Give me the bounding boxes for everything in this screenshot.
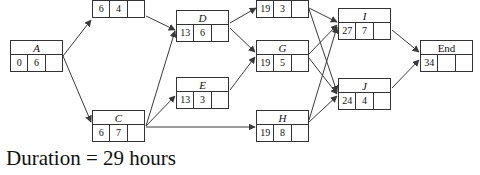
node-label: I	[339, 9, 390, 23]
edge-d-to-f	[230, 8, 256, 23]
edge-a-to-c	[63, 56, 91, 122]
node-cell-2	[128, 125, 144, 141]
edge-h-to-j	[309, 96, 337, 122]
node-cell-0: 0	[11, 55, 28, 71]
node-label: A	[11, 41, 62, 55]
edge-e-to-g	[230, 57, 255, 90]
node-cell-0: 19	[257, 125, 274, 141]
node-f: 193	[256, 0, 309, 18]
node-cell-2	[212, 92, 228, 108]
node-cell-1: 4	[356, 93, 373, 109]
node-cell-1: 7	[356, 23, 373, 39]
node-cell-1: 6	[194, 25, 211, 41]
node-j: J244	[338, 78, 391, 110]
node-cell-0: 19	[257, 1, 274, 17]
node-cell-2	[374, 93, 390, 109]
node-label: G	[257, 41, 308, 55]
edge-g-to-j	[309, 58, 337, 94]
node-cell-0: 6	[93, 125, 110, 141]
node-cell-1: 8	[274, 125, 291, 141]
node-e: E133	[176, 77, 229, 109]
duration-caption: Duration = 29 hours	[6, 145, 176, 171]
node-cells: 277	[339, 23, 390, 39]
node-cells: 193	[257, 1, 308, 17]
node-cell-2	[212, 25, 228, 41]
node-b: 64	[92, 0, 145, 18]
node-label: End	[421, 41, 472, 55]
node-cell-1: 3	[274, 1, 291, 17]
node-label: C	[93, 111, 144, 125]
node-cell-0: 24	[339, 93, 356, 109]
node-cell-2	[374, 23, 390, 39]
node-label: J	[339, 79, 390, 93]
edge-h-to-i	[309, 27, 337, 120]
node-label: D	[177, 11, 228, 25]
node-cell-1: 4	[110, 1, 127, 17]
node-cell-1	[438, 55, 455, 71]
node-cell-0: 27	[339, 23, 356, 39]
node-g: G195	[256, 40, 309, 72]
node-cells: 34	[421, 55, 472, 71]
node-cells: 133	[177, 92, 228, 108]
node-cell-0: 6	[93, 1, 110, 17]
node-cell-1: 3	[194, 92, 211, 108]
edge-i-to-end	[392, 30, 419, 52]
edge-j-to-end	[392, 60, 419, 88]
node-cell-2	[292, 125, 308, 141]
node-cell-0: 13	[177, 25, 194, 41]
edge-c-to-d	[146, 31, 175, 126]
node-cell-0: 19	[257, 55, 274, 71]
node-cell-1: 5	[274, 55, 291, 71]
edge-b-to-d	[146, 16, 175, 30]
node-cell-0: 34	[421, 55, 438, 71]
node-i: I277	[338, 8, 391, 40]
node-cells: 198	[257, 125, 308, 141]
node-cell-0: 13	[177, 92, 194, 108]
node-cells: 195	[257, 55, 308, 71]
node-label: H	[257, 111, 308, 125]
node-cells: 136	[177, 25, 228, 41]
node-cell-2	[292, 1, 308, 17]
node-h: H198	[256, 110, 309, 142]
node-cell-2	[292, 55, 308, 71]
node-cell-1: 7	[110, 125, 127, 141]
node-cell-2	[456, 55, 472, 71]
node-cells: 64	[93, 1, 144, 17]
node-c: C67	[92, 110, 145, 142]
node-cell-2	[46, 55, 62, 71]
node-a: A06	[10, 40, 63, 72]
edge-d-to-g	[230, 28, 255, 52]
node-d: D136	[176, 10, 229, 42]
network-diagram-page: A0664C67D136E133193G195H198I277J244End34…	[0, 0, 480, 175]
node-cell-2	[128, 1, 144, 17]
node-cells: 244	[339, 93, 390, 109]
node-cells: 06	[11, 55, 62, 71]
edge-f-to-j	[309, 9, 337, 92]
node-label: E	[177, 78, 228, 92]
node-end: End34	[420, 40, 473, 72]
node-cells: 67	[93, 125, 144, 141]
edge-a-to-b	[63, 20, 91, 56]
node-cell-1: 6	[28, 55, 45, 71]
